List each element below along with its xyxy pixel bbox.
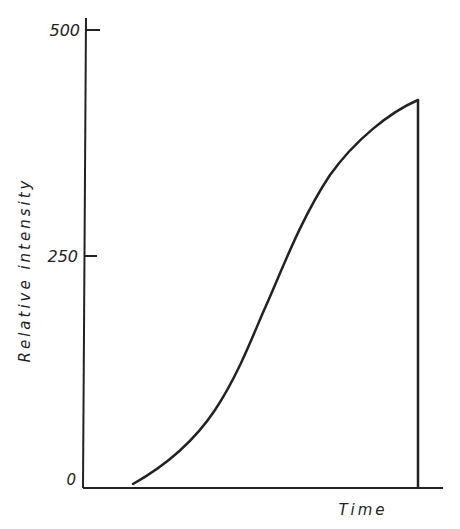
y-axis <box>83 18 86 488</box>
x-axis-label: Time <box>338 501 387 519</box>
y-tick-label-0: 0 <box>66 471 76 489</box>
y-tick-label-250: 250 <box>47 247 78 266</box>
y-axis-label: Relative intensity <box>16 178 34 363</box>
intensity-curve <box>133 100 418 484</box>
chart: 500 250 0 Time Relative intensity <box>0 0 460 529</box>
y-tick-label-500: 500 <box>49 21 80 40</box>
